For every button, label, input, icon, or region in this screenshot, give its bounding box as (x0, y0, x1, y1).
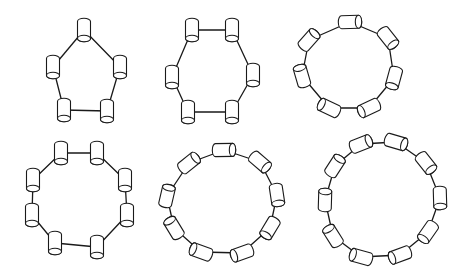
cylinder-end-cap (182, 117, 195, 123)
cylinder-icon (188, 242, 214, 262)
ring-6 (166, 18, 260, 123)
cylinder-end-cap (91, 158, 104, 164)
cylinder-icon (229, 243, 255, 263)
cylinder-end-cap (101, 116, 114, 122)
cylinder-icon (247, 149, 273, 174)
cylinder-icon (114, 55, 127, 78)
ring-5 (47, 18, 127, 122)
ring-7 (292, 15, 403, 119)
cylinder-icon (212, 143, 236, 156)
cylinder-end-cap (114, 72, 127, 78)
cylinder-icon (186, 18, 199, 41)
cylinder-icon (26, 203, 39, 226)
cylinder-icon (47, 55, 60, 78)
cylinder-icon (323, 153, 347, 180)
cylinder-end-cap (226, 35, 239, 41)
ring-topology-diagram (0, 0, 473, 277)
cylinder-icon (158, 183, 176, 209)
cylinder-icon (321, 223, 344, 250)
cylinder-end-cap (434, 203, 447, 210)
cylinder-end-cap (186, 35, 199, 41)
cylinder-icon (27, 168, 40, 191)
ring-9 (158, 143, 285, 263)
cylinder-icon (226, 18, 239, 41)
cylinder-icon (101, 99, 114, 122)
cylinder-icon (416, 219, 440, 246)
cylinder-end-cap (166, 82, 179, 88)
cylinder-icon (385, 65, 404, 91)
cylinder-icon (316, 97, 343, 119)
cylinder-end-cap (49, 248, 62, 254)
cylinder-icon (91, 235, 104, 258)
cylinder-icon (58, 98, 71, 121)
cylinder-end-cap (226, 117, 239, 123)
ring-8 (26, 141, 134, 258)
cylinder-end-cap (26, 220, 39, 226)
cylinder-icon (91, 141, 104, 164)
cylinder-end-cap (78, 35, 91, 41)
cylinder-icon (414, 150, 439, 176)
cylinder-icon (338, 15, 362, 29)
cylinder-icon (55, 141, 68, 164)
cylinder-icon (78, 18, 91, 41)
cylinder-end-cap (229, 143, 236, 156)
cylinder-end-cap (119, 185, 132, 191)
cylinder-end-cap (355, 15, 362, 28)
cylinder-icon (121, 203, 134, 226)
cylinder-icon (258, 215, 281, 242)
cylinder-icon (356, 97, 383, 119)
cylinder-icon (166, 65, 179, 88)
cylinder-icon (348, 248, 374, 267)
ring-10 (318, 132, 447, 266)
cylinder-end-cap (58, 115, 71, 121)
cylinder-icon (247, 63, 260, 86)
cylinder-icon (49, 231, 62, 254)
cylinder-icon (119, 168, 132, 191)
cylinder-end-cap (247, 80, 260, 86)
cylinder-icon (162, 215, 185, 242)
cylinder-icon (318, 188, 332, 212)
cylinder-icon (296, 27, 321, 53)
cylinder-icon (226, 100, 239, 123)
cylinder-icon (292, 63, 311, 89)
cylinder-icon (383, 132, 409, 151)
cylinder-icon (433, 186, 447, 210)
cylinder-icon (387, 245, 413, 265)
cylinder-icon (376, 25, 401, 51)
cylinder-icon (182, 100, 195, 123)
cylinder-end-cap (319, 188, 332, 195)
cylinder-icon (269, 182, 285, 207)
cylinder-end-cap (91, 252, 104, 258)
cylinder-end-cap (55, 158, 68, 164)
cylinder-end-cap (27, 185, 40, 191)
cylinder-icon (348, 134, 375, 155)
cylinder-end-cap (121, 220, 134, 226)
cylinder-end-cap (47, 72, 60, 78)
cylinder-icon (176, 151, 202, 176)
